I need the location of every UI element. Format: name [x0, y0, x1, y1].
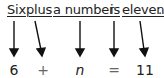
arrow-six-icon	[10, 21, 18, 56]
arrow-number-icon	[76, 21, 84, 56]
equation-eleven: 11	[136, 61, 154, 78]
equation-equals: =	[108, 61, 120, 78]
arrow-is-icon	[110, 21, 118, 56]
arrow-eleven-icon	[140, 21, 148, 56]
equation-six: 6	[10, 61, 19, 78]
equation-variable-n: n	[76, 61, 85, 78]
arrow-plus-icon	[35, 21, 45, 56]
equation-plus: +	[37, 61, 49, 78]
